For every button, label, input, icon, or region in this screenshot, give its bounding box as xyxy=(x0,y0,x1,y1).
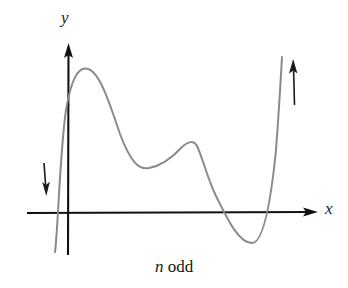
caption-word: odd xyxy=(168,257,194,276)
x-axis-line xyxy=(27,212,311,213)
right-end-behavior-arrow xyxy=(289,59,297,105)
x-axis-label: x xyxy=(325,200,333,217)
figure-canvas xyxy=(0,0,348,288)
right-arrow-shaft xyxy=(294,66,295,105)
polynomial-curve xyxy=(55,57,282,252)
y-axis xyxy=(64,43,73,255)
figure-caption: n odd xyxy=(0,258,348,277)
x-axis xyxy=(27,208,318,217)
left-end-behavior-arrow xyxy=(42,163,50,196)
y-axis-line xyxy=(68,50,69,255)
y-axis-label: y xyxy=(61,9,69,26)
polynomial-end-behavior-figure: y x n odd xyxy=(0,0,348,288)
